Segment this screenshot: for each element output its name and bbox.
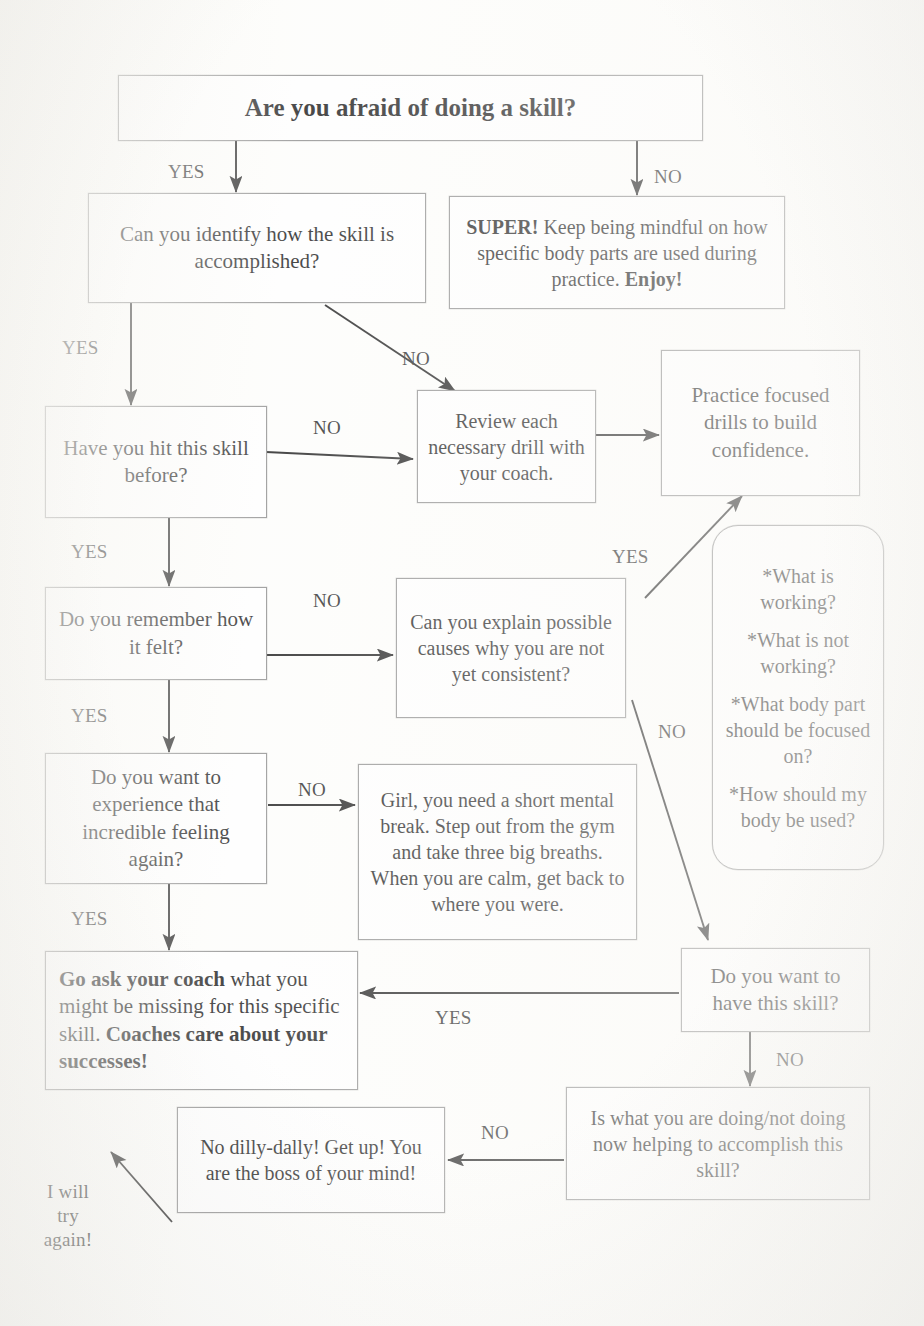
node-start-question[interactable]: Are you afraid of doing a skill?	[118, 75, 703, 141]
edge-label-hit-before-no: NO	[313, 416, 341, 440]
node-remember-how-it-felt[interactable]: Do you remember how it felt?	[45, 587, 267, 680]
node-dilly-dally-text: No dilly-dally! Get up! You are the boss…	[178, 1132, 444, 1188]
node-ask-your-coach[interactable]: Go ask your coach what you might be miss…	[45, 951, 358, 1090]
node-identify-skill[interactable]: Can you identify how the skill is accomp…	[88, 193, 426, 303]
node-hit-before-text: Have you hit this skill before?	[46, 433, 266, 492]
node-super-mindful[interactable]: SUPER! Keep being mindful on how specifi…	[449, 196, 785, 309]
edge-label-hit-before-yes: YES	[71, 540, 108, 564]
question-item-1: *What is working?	[722, 563, 874, 615]
node-explain-causes[interactable]: Can you explain possible causes why you …	[396, 578, 626, 718]
question-item-3: *What body part should be focused on?	[722, 691, 874, 769]
question-item-2: *What is not working?	[722, 627, 874, 679]
node-remember-text: Do you remember how it felt?	[46, 604, 266, 663]
edge-label-try-again: I will try again!	[33, 1180, 103, 1251]
node-hit-skill-before[interactable]: Have you hit this skill before?	[45, 406, 267, 518]
edge-label-explain-yes: YES	[612, 545, 649, 569]
node-experience-text: Do you want to experience that incredibl…	[46, 762, 266, 875]
node-super-bold-lead: SUPER!	[466, 216, 538, 238]
edge-label-helping-no: NO	[481, 1121, 509, 1145]
node-practice-drills-text: Practice focused drills to build confide…	[662, 380, 859, 466]
edge-label-identify-yes: YES	[62, 336, 99, 360]
node-experience-feeling-again[interactable]: Do you want to experience that incredibl…	[45, 753, 267, 884]
node-identify-text: Can you identify how the skill is accomp…	[89, 219, 425, 278]
node-super-bold-tail: Enjoy!	[625, 268, 683, 290]
question-item-4: *How should my body be used?	[722, 781, 874, 833]
node-practice-drills[interactable]: Practice focused drills to build confide…	[661, 350, 860, 496]
edge-label-remember-yes: YES	[71, 704, 108, 728]
node-ask-coach-text: Go ask your coach what you might be miss…	[46, 966, 357, 1075]
edge-label-identify-no: NO	[402, 347, 430, 371]
edge-try-again	[111, 1152, 172, 1222]
edge-label-explain-no: NO	[658, 720, 686, 744]
edge-label-start-no: NO	[654, 165, 682, 189]
node-ask-coach-bold-lead: Go ask your coach	[59, 967, 225, 991]
node-want-skill-text: Do you want to have this skill?	[682, 961, 869, 1020]
node-mental-break[interactable]: Girl, you need a short mental break. Ste…	[358, 764, 637, 940]
edge-label-want-skill-no: NO	[776, 1048, 804, 1072]
edge-hit-no	[266, 452, 413, 459]
node-explain-causes-text: Can you explain possible causes why you …	[397, 607, 625, 689]
node-start-text: Are you afraid of doing a skill?	[236, 90, 586, 127]
flowchart-page: Are you afraid of doing a skill? Can you…	[0, 0, 924, 1326]
edge-label-experience-no: NO	[298, 778, 326, 802]
node-no-dilly-dally[interactable]: No dilly-dally! Get up! You are the boss…	[177, 1107, 445, 1213]
node-super-text: SUPER! Keep being mindful on how specifi…	[450, 212, 784, 294]
edge-label-remember-no: NO	[313, 589, 341, 613]
edge-label-start-yes: YES	[168, 160, 205, 184]
node-review-drill-text: Review each necessary drill with your co…	[418, 406, 595, 488]
edge-label-want-skill-yes: YES	[435, 1006, 472, 1030]
edge-identify-no	[325, 305, 455, 391]
node-helping-text: Is what you are doing/not doing now help…	[567, 1103, 869, 1185]
node-review-drill[interactable]: Review each necessary drill with your co…	[417, 390, 596, 503]
edge-label-experience-yes: YES	[71, 907, 108, 931]
node-questions-list: *What is working? *What is not working? …	[713, 549, 883, 847]
node-is-it-helping[interactable]: Is what you are doing/not doing now help…	[566, 1087, 870, 1200]
node-want-this-skill[interactable]: Do you want to have this skill?	[681, 948, 870, 1032]
node-mental-break-text: Girl, you need a short mental break. Ste…	[359, 785, 636, 919]
node-reflection-questions[interactable]: *What is working? *What is not working? …	[712, 525, 884, 870]
